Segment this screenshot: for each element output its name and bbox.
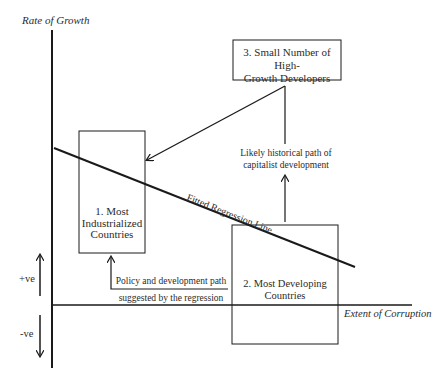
box3-line2: Growth Developers — [233, 72, 341, 85]
historical-path-label: Likely historical path of capitalist dev… — [226, 147, 346, 171]
box-most-industrialized-label: 1. Most Industrialized Countries — [79, 206, 145, 241]
box3-line1: 3. Small Number of High- — [233, 46, 341, 72]
box2-line2: Countries — [232, 290, 338, 302]
regression-line-label: Fitted Regression Line — [185, 192, 274, 236]
historical-path-line1: Likely historical path of — [226, 147, 346, 159]
policy-path-line2: suggested by the regression — [111, 290, 231, 307]
box-most-developing-label: 2. Most Developing Countries — [232, 278, 338, 302]
policy-path-label: Policy and development path suggested by… — [111, 273, 231, 307]
box2-line1: 2. Most Developing — [232, 278, 338, 290]
y-axis-label: Rate of Growth — [22, 14, 89, 26]
box-high-growth-label: 3. Small Number of High- Growth Develope… — [233, 46, 341, 85]
positive-label: +ve — [19, 273, 35, 285]
x-axis-label: Extent of Corruption — [344, 308, 432, 320]
historical-path-line2: capitalist development — [226, 159, 346, 171]
negative-label: -ve — [20, 328, 33, 340]
box1-line3: Countries — [79, 229, 145, 241]
box1-line1: 1. Most — [79, 206, 145, 218]
policy-path-line1: Policy and development path — [111, 273, 231, 290]
